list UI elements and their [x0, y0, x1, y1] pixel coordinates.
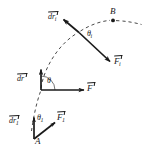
vector-f-1: [34, 123, 55, 140]
angle-arc-theta: [41, 76, 55, 90]
angle-helper-ray-mid: [41, 89, 84, 90]
diagram-canvas: [0, 0, 147, 154]
vector-f-i: [79, 33, 110, 62]
vector-dr-i: [64, 20, 80, 33]
physics-vector-diagram: dri θi B Fi dr θ F dr1 θ1 F1 A: [0, 0, 147, 154]
point-b-marker: [111, 19, 115, 23]
trajectory-path: [32, 20, 142, 131]
vector-group-mid: [41, 70, 84, 91]
vector-group-start: [34, 118, 55, 140]
vector-group-i: [64, 20, 111, 62]
